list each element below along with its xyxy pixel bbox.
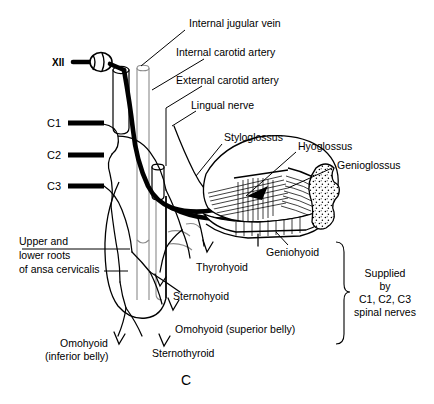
brace-note-line2: by — [379, 280, 391, 292]
label-c1: C1 — [47, 117, 61, 129]
label-geniohyoid: Geniohyoid — [266, 246, 319, 258]
label-c2: C2 — [47, 149, 61, 161]
label-ansa-cervicalis-line2: lower roots — [19, 249, 70, 261]
label-genioglossus: Genioglossus — [337, 159, 401, 171]
label-internal-carotid-artery: Internal carotid artery — [176, 46, 276, 58]
label-omohyoid-inferior-belly-line1: Omohyoid — [60, 337, 108, 349]
hypoglossal-nerve-diagram: XII C1 C2 C3 Internal jugular vein Inter… — [0, 0, 434, 404]
label-lingual-nerve: Lingual nerve — [191, 99, 254, 111]
label-styloglossus: Styloglossus — [224, 131, 283, 143]
brace-note-line1: Supplied — [365, 267, 406, 279]
anatomical-figure: XII C1 C2 C3 Internal jugular vein Inter… — [0, 0, 434, 404]
label-internal-jugular-vein: Internal jugular vein — [189, 17, 281, 29]
label-sternothyroid: Sternothyroid — [152, 347, 215, 359]
label-thyrohyoid: Thyrohyoid — [196, 261, 248, 273]
panel-letter: C — [181, 372, 191, 388]
label-external-carotid-artery: External carotid artery — [176, 74, 279, 86]
label-ansa-cervicalis-line1: Upper and — [19, 235, 68, 247]
label-omohyoid-superior-belly: Omohyoid (superior belly) — [175, 323, 295, 335]
label-omohyoid-inferior-belly-line2: (inferior belly) — [45, 350, 109, 362]
label-cn12: XII — [52, 57, 64, 68]
label-sternohyoid: Sternohyoid — [173, 290, 229, 302]
label-c3: C3 — [47, 180, 61, 192]
label-hyoglossus: Hyoglossus — [298, 140, 352, 152]
label-ansa-cervicalis-line3: of ansa cervicalis — [19, 263, 100, 275]
brace-note-line3: C1, C2, C3 — [359, 293, 411, 305]
brace-note-line4: spinal nerves — [354, 306, 416, 318]
